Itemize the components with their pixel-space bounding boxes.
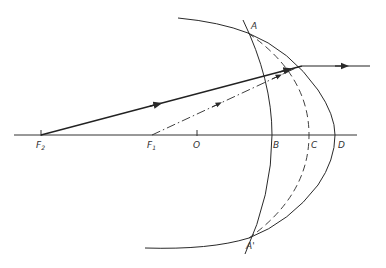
ray-arrow-2 [280,70,288,72]
solid-ray-from-f2 [41,66,302,135]
dashdot-arrow-2 [272,76,279,79]
label-c: C [311,140,318,150]
label-a-prime: A' [245,241,255,251]
label-f2: F2 [36,140,45,151]
optics-diagram: F2 F1 O A A' B C D [0,0,386,268]
label-b: B [273,140,279,150]
large-arc-bottom [145,135,335,248]
label-a: A [250,21,257,31]
label-f1: F1 [147,140,156,151]
ray-arrow-1 [150,104,158,106]
dashdot-arrow-1 [212,104,219,107]
label-d: D [338,140,345,150]
arc-through-b [243,20,272,254]
large-arc-top [178,18,335,135]
label-o: O [193,140,200,150]
